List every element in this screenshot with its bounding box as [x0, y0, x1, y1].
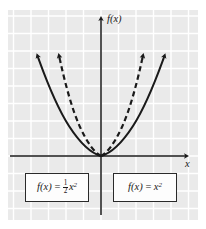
formula-variable-left: x — [69, 182, 74, 193]
curve-half-x-squared-left-arrow — [38, 56, 39, 60]
formula-equals-right: = — [145, 182, 151, 193]
curve-x-squared-left-arrow — [59, 56, 60, 60]
formula-fn-left: f(x) — [37, 182, 52, 193]
formula-equals-left: = — [54, 182, 60, 193]
formula-box-solid-curve: f(x)=12x2 — [25, 173, 89, 202]
formula-variable-right: x — [154, 182, 159, 193]
curve-half-x-squared-right-arrow — [163, 56, 164, 60]
x-axis-label: x — [184, 158, 190, 169]
formula-fraction-one-half: 12 — [63, 180, 69, 196]
fraction-denominator: 2 — [63, 187, 69, 195]
formula-box-dashed-curve: f(x)=x2 — [113, 173, 177, 202]
formula-expression-x-squared: f(x)=x2 — [128, 182, 162, 193]
parabola-comparison-figure: f(x) x f(x)=12x2 f(x)=x2 — [0, 0, 206, 229]
y-axis-label: f(x) — [107, 13, 122, 25]
formula-expression-half-x-squared: f(x)=12x2 — [37, 180, 77, 196]
fraction-numerator: 1 — [63, 180, 69, 187]
formula-fn-right: f(x) — [128, 182, 143, 193]
curve-x-squared-right-arrow — [142, 56, 143, 60]
